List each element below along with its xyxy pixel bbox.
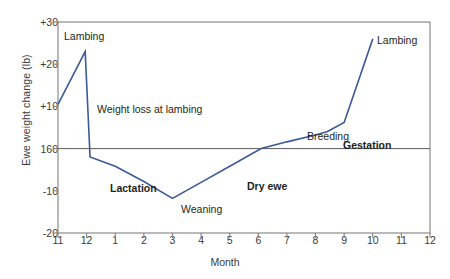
- data-line-series: [58, 39, 373, 199]
- chart-annotation-gestation: Gestation: [343, 139, 391, 151]
- chart-annotation-weight-loss-at-lambing: Weight loss at lambing: [97, 103, 202, 115]
- chart-figure: Ewe weight change (lb) +30+20+10160-10-2…: [0, 0, 450, 279]
- chart-annotation-lambing: Lambing: [64, 30, 104, 42]
- axis-tick-marks: [53, 22, 430, 238]
- plot-frame: [58, 22, 430, 233]
- chart-annotation-dry-ewe: Dry ewe: [247, 180, 287, 192]
- chart-annotation-lambing: Lambing: [377, 34, 417, 46]
- chart-annotation-weaning: Weaning: [181, 203, 222, 215]
- chart-annotation-lactation: Lactation: [110, 182, 157, 194]
